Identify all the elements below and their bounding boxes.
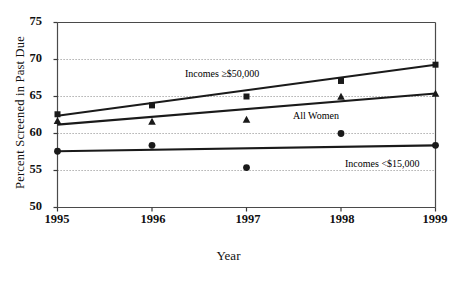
chart-figure: Percent Screened in Past Due 75 70 65 60… bbox=[0, 0, 457, 282]
grid-lines bbox=[58, 60, 436, 171]
plot-area bbox=[0, 0, 457, 282]
axis-lines bbox=[58, 23, 436, 208]
axis-ticks bbox=[54, 23, 436, 212]
data-markers bbox=[54, 62, 440, 171]
trend-lines bbox=[58, 65, 436, 152]
